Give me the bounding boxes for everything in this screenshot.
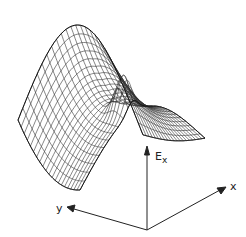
mesh-line bbox=[42, 64, 104, 148]
y-axis-label: y bbox=[56, 202, 63, 215]
mesh-line bbox=[37, 74, 99, 156]
mesh-line bbox=[24, 43, 149, 137]
mesh-line bbox=[74, 80, 199, 190]
y-axis bbox=[74, 209, 147, 230]
ex-axis-arrowhead bbox=[145, 146, 150, 155]
surface-edge bbox=[143, 135, 205, 141]
x-axis-label: x bbox=[230, 180, 237, 193]
surface-mesh bbox=[18, 25, 205, 190]
x-axis-arrowhead bbox=[217, 187, 226, 194]
x-axis bbox=[147, 190, 220, 230]
ex-axis-label: Ex bbox=[155, 150, 168, 165]
wireframe-surface-figure: Ex x y bbox=[0, 0, 246, 237]
y-axis-arrowhead bbox=[67, 205, 75, 212]
